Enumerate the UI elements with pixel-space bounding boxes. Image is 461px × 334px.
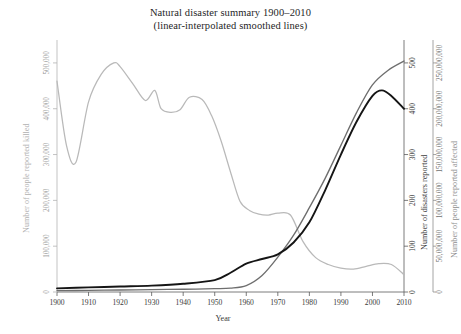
svg-text:300: 300 xyxy=(408,149,417,161)
svg-text:50,000,000: 50,000,000 xyxy=(436,230,444,263)
axis-label-affected: Number of people reported affected xyxy=(450,141,459,258)
series-line xyxy=(57,61,404,291)
svg-text:150,000,000: 150,000,000 xyxy=(436,136,444,172)
series-line xyxy=(57,63,404,275)
svg-text:400,000: 400,000 xyxy=(43,97,51,121)
svg-text:200,000: 200,000 xyxy=(43,188,51,212)
axis-label-year: Year xyxy=(0,314,231,323)
svg-text:0: 0 xyxy=(43,290,51,294)
axes-group: 1900191019201930194019501960197019801990… xyxy=(43,40,444,307)
svg-text:400: 400 xyxy=(408,103,417,115)
svg-text:500: 500 xyxy=(408,57,417,69)
series-line xyxy=(57,90,404,288)
axis-label-killed: Number of people reported killed xyxy=(22,123,31,233)
series-group xyxy=(57,61,404,291)
svg-text:1910: 1910 xyxy=(81,298,96,307)
svg-text:0: 0 xyxy=(408,290,417,294)
axis-label-disasters: Number of disasters reported xyxy=(420,155,429,250)
svg-text:1900: 1900 xyxy=(49,298,64,307)
svg-text:1940: 1940 xyxy=(176,298,191,307)
chart-figure: Natural disaster summary 1900–2010 (line… xyxy=(0,0,461,334)
svg-text:1990: 1990 xyxy=(333,298,348,307)
svg-text:1920: 1920 xyxy=(112,298,127,307)
svg-text:1930: 1930 xyxy=(144,298,159,307)
svg-text:500,000: 500,000 xyxy=(43,51,51,75)
svg-text:1950: 1950 xyxy=(207,298,222,307)
svg-text:300,000: 300,000 xyxy=(43,142,51,166)
svg-text:0: 0 xyxy=(436,290,444,294)
svg-text:1970: 1970 xyxy=(270,298,285,307)
svg-text:100,000: 100,000 xyxy=(43,234,51,258)
svg-text:200,000,000: 200,000,000 xyxy=(436,90,444,126)
svg-text:200: 200 xyxy=(408,194,417,206)
svg-text:2010: 2010 xyxy=(396,298,411,307)
svg-text:250,000,000: 250,000,000 xyxy=(436,45,444,81)
chart-plot-area: 1900191019201930194019501960197019801990… xyxy=(0,0,461,334)
svg-text:100: 100 xyxy=(408,240,417,252)
svg-text:2000: 2000 xyxy=(365,298,380,307)
svg-text:1960: 1960 xyxy=(239,298,254,307)
svg-text:1980: 1980 xyxy=(302,298,317,307)
svg-text:100,000,000: 100,000,000 xyxy=(436,182,444,218)
